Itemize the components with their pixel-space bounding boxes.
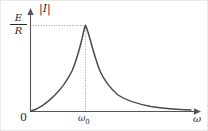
x-axis-label: ω [193,114,201,124]
resonance-curve-path [31,26,191,112]
origin-label: 0 [20,112,27,123]
resonance-curve-figure: 0 |I| ω ω0 E R [0,0,208,131]
x-tick-label-omega-zero: ω0 [78,114,90,126]
fraction-denominator: R [9,26,28,37]
y-axis-arrow-icon [27,8,33,15]
omega-subscript: 0 [85,118,89,126]
plot-canvas [1,1,208,131]
y-tick-label-e-over-r: E R [9,13,28,36]
fraction-numerator: E [9,13,28,24]
y-axis-label: |I| [39,3,51,14]
